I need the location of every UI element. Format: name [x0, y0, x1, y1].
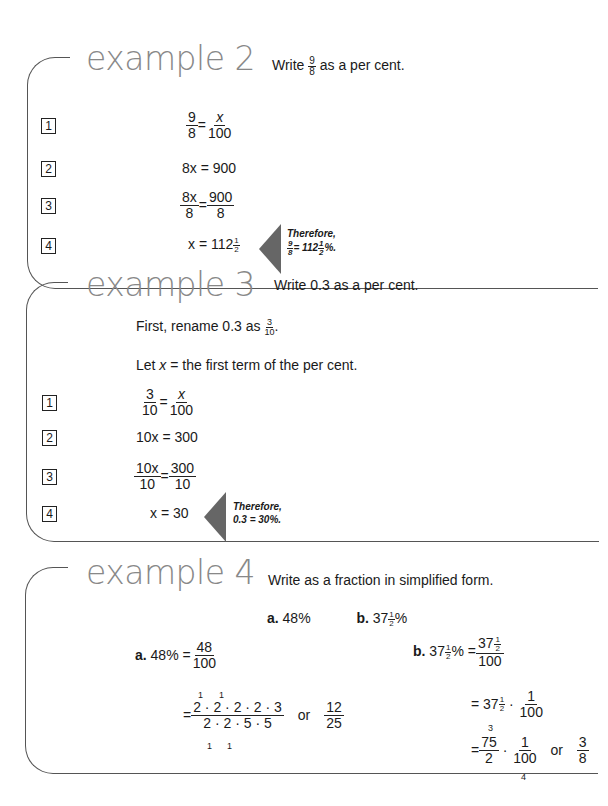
equation: 8x8=9008: [180, 190, 234, 222]
solution-a-line2: 1 1 1 1 =2 · 2 · 2 · 2 · 32 · 2 · 5 · 5 …: [183, 700, 344, 732]
step-number: 2: [41, 161, 56, 177]
let-text: Let x = the first term of the per cent.: [136, 357, 357, 373]
example-3-title: example 3: [86, 268, 255, 301]
arrow-pointer-icon: [259, 224, 281, 274]
step-number: 2: [42, 430, 57, 446]
example-3-prompt: Write 0.3 as a per cent.: [274, 277, 418, 293]
example-4-title: example 4: [86, 556, 255, 589]
solution-b-line2: = 3712 · 1100: [471, 689, 545, 721]
solution-a-line1: a. 48% =48100: [135, 640, 218, 672]
parts-list: a. 48% b. 3712%: [267, 610, 407, 628]
step-number: 4: [41, 238, 56, 254]
equation: 10x10=30010: [134, 461, 196, 493]
solution-b-line3: 3 4 =752 · 1100 or 38: [471, 735, 589, 767]
equation: 98=x100: [186, 110, 233, 142]
conclusion-text: Therefore, 0.3 = 30%.: [233, 500, 282, 526]
conclusion-text: Therefore, 98= 11212%.: [287, 227, 336, 257]
arrow-pointer-icon: [204, 492, 226, 542]
equation: 10x = 300: [136, 429, 198, 445]
solution-b-line1: b. 3712% =3712100: [413, 636, 504, 669]
step-number: 1: [41, 118, 56, 134]
step-number: 3: [42, 469, 57, 485]
equation: x = 11212: [188, 236, 240, 254]
step-number: 4: [42, 506, 57, 522]
step-number: 1: [42, 395, 57, 411]
step-number: 3: [41, 198, 56, 214]
example-3-frame: [26, 282, 599, 542]
example-4-prompt: Write as a fraction in simplified form.: [268, 572, 493, 588]
example-2-title: example 2: [86, 42, 255, 75]
equation: 310=x100: [140, 387, 195, 419]
example-2-prompt: Write 98 as a per cent.: [272, 56, 405, 77]
equation: x = 30: [150, 505, 189, 521]
equation: 8x = 900: [182, 160, 236, 176]
intro-text: First, rename 0.3 as 310.: [136, 318, 278, 337]
